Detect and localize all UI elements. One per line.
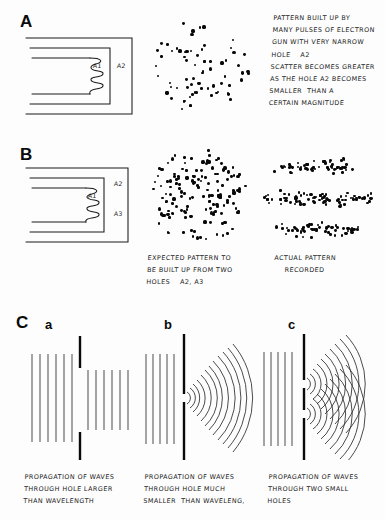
caption-expected-pattern: EXPECTED PATTERN TO BE BUILT UP FROM TWO…	[146, 252, 233, 289]
caption-subpanel-c: PROPAGATION OF WAVES THROUGH TWO SMALL H…	[267, 471, 359, 508]
apparatus-diagram-b	[24, 158, 149, 250]
subpanel-letter-b: b	[164, 318, 172, 331]
apparatus-label-b-a3: A3	[114, 210, 123, 217]
apparatus-label-b-a1: A1	[88, 192, 97, 199]
apparatus-diagram-a	[24, 26, 149, 121]
caption-subpanel-a: PROPAGATION OF WAVES THROUGH HOLE LARGER…	[23, 471, 115, 508]
apparatus-label-b-a2: A2	[114, 180, 123, 187]
subpanel-letter-c: c	[288, 318, 295, 331]
subpanel-letter-a: a	[45, 318, 52, 331]
figure-page: A A1 A2 PATTERN BUILT UP BY MANY PULSES …	[0, 0, 385, 520]
single-hole-scatter-pattern	[150, 12, 254, 117]
expected-two-hole-pattern	[146, 146, 250, 246]
apparatus-label-a1: A1	[93, 62, 102, 69]
wave-diagram-large-hole	[20, 332, 138, 460]
wave-diagram-small-hole	[140, 332, 260, 460]
caption-panel-a: PATTERN BUILT UP BY MANY PULSES OF ELECT…	[268, 12, 377, 110]
apparatus-label-a2: A2	[117, 62, 126, 69]
caption-actual-pattern: ACTUAL PATTERN RECORDED	[273, 252, 336, 276]
caption-subpanel-b: PROPAGATION OF WAVES THROUGH HOLE MUCH S…	[143, 471, 246, 508]
wave-diagram-two-small-holes	[258, 332, 382, 460]
actual-interference-pattern	[262, 150, 374, 246]
panel-letter-c: C	[16, 314, 28, 331]
